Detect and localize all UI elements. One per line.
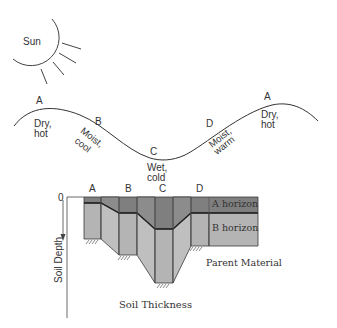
- depth-axis: 0 Soil Depth: [53, 192, 84, 318]
- a-horizon-label: A horizon: [211, 198, 258, 209]
- soil-thickness-label: Soil Thickness: [119, 299, 192, 310]
- point-condition: hot: [34, 128, 48, 139]
- landscape-point-c: C Wet, cold: [147, 146, 167, 183]
- column-label-b: B: [125, 183, 132, 194]
- point-letter: C: [150, 146, 157, 157]
- landscape-point-a-right: A Dry, hot: [261, 91, 279, 130]
- soil-depth-label: Soil Depth: [53, 237, 64, 283]
- sun-rays-icon: [41, 43, 81, 84]
- point-letter: B: [95, 116, 102, 127]
- parent-material-label: Parent Material: [206, 257, 282, 268]
- landscape-point-b: B Moist, cool: [73, 116, 106, 154]
- sun: Sun: [13, 19, 81, 84]
- point-letter: D: [206, 118, 213, 129]
- b-horizon-label: B horizon: [212, 222, 258, 233]
- landscape-point-a-left: A Dry, hot: [34, 95, 52, 139]
- b-horizon-column-c: [155, 229, 173, 283]
- b-horizon-column-d: [191, 213, 209, 246]
- zero-label: 0: [58, 192, 64, 203]
- point-letter: A: [36, 95, 43, 106]
- soil-profile: [84, 197, 258, 283]
- axis-line: [67, 197, 84, 318]
- point-condition: hot: [261, 119, 275, 130]
- column-label-d: D: [196, 183, 203, 194]
- sun-label: Sun: [23, 36, 41, 47]
- b-horizon-column-a: [84, 203, 101, 239]
- point-condition: cold: [147, 172, 165, 183]
- point-letter: A: [264, 91, 271, 102]
- soil-formation-diagram: Sun A Dry, hot B Moist, cool C Wet, cold…: [0, 0, 337, 328]
- b-horizon-column-b: [119, 213, 137, 255]
- column-label-a: A: [89, 183, 96, 194]
- profile-column-labels: A B C D: [89, 183, 203, 194]
- column-label-c: C: [159, 183, 166, 194]
